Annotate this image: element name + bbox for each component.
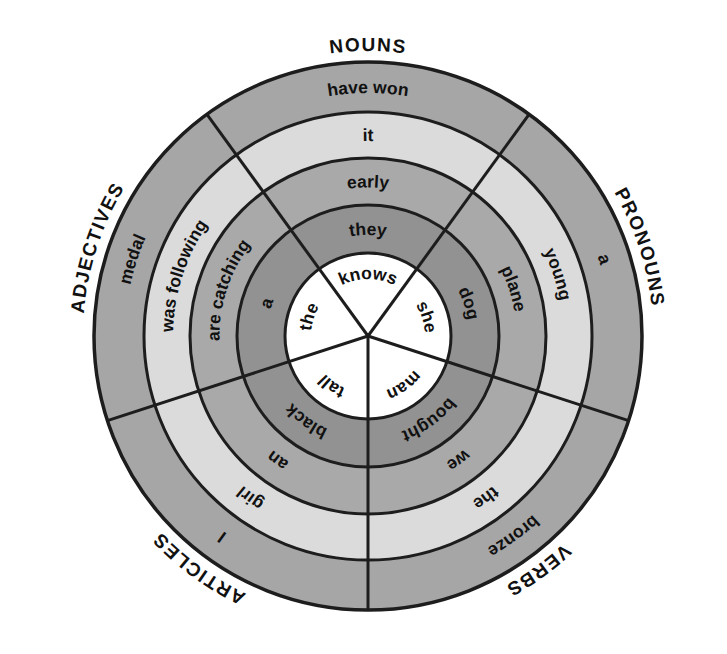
word-wheel-diagram: knowstheyearlyithave wonNOUNSshedogplane…: [0, 0, 727, 654]
word-wheel-svg: knowstheyearlyithave wonNOUNSshedogplane…: [0, 0, 727, 654]
word-text-nouns-1: they: [348, 219, 389, 241]
word-text-nouns-2: early: [346, 171, 390, 192]
word-nouns-ring-1: they: [348, 219, 389, 241]
word-nouns-ring-2: early: [346, 171, 390, 192]
word-text-nouns-3: it: [362, 125, 373, 145]
category-label-nouns: NOUNS: [328, 34, 408, 57]
word-nouns-ring-3: it: [362, 125, 373, 145]
category-label-text-nouns: NOUNS: [328, 34, 408, 57]
